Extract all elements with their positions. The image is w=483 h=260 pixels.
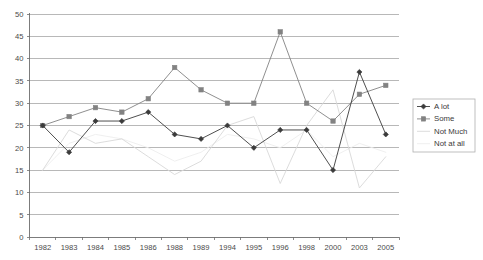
- data-point-marker: [252, 101, 256, 105]
- data-point-marker: [357, 69, 362, 74]
- x-axis-tick-label: 1995: [245, 243, 262, 252]
- x-axis-tick-label: 2000: [325, 243, 342, 252]
- y-axis-tick-label: 10: [15, 188, 23, 197]
- y-axis-tick-label: 20: [15, 144, 23, 153]
- x-axis-tick-label: 1989: [193, 243, 210, 252]
- data-point-marker: [93, 105, 97, 109]
- line-chart: 05101520253035404550 1982198319841985198…: [0, 0, 483, 260]
- y-axis-tick-label: 5: [19, 211, 23, 220]
- legend-item-label: Not Much: [434, 127, 467, 136]
- data-point-marker: [384, 83, 388, 87]
- x-axis-tick-label: 1985: [113, 243, 130, 252]
- y-axis-tick-label: 0: [19, 233, 23, 242]
- data-point-marker: [199, 88, 203, 92]
- x-axis-tick-label: 1982: [34, 243, 51, 252]
- data-point-marker: [383, 132, 388, 137]
- series-line: [43, 32, 386, 126]
- x-axis-tick-label: 1983: [61, 243, 78, 252]
- legend-item-label: Some: [434, 114, 454, 123]
- y-axis-tick-label: 40: [15, 54, 23, 63]
- data-point-marker: [172, 65, 176, 69]
- data-series-group: [40, 30, 388, 188]
- gridlines-group: [30, 14, 400, 215]
- data-point-marker: [330, 168, 335, 173]
- legend-item-label: A lot: [434, 102, 450, 111]
- data-point-marker: [278, 30, 282, 34]
- x-axis-tick-label: 1984: [87, 243, 104, 252]
- chart-canvas: 05101520253035404550 1982198319841985198…: [0, 0, 483, 260]
- data-point-marker: [146, 97, 150, 101]
- data-point-marker: [198, 136, 203, 141]
- y-axis-tick-label: 50: [15, 10, 23, 19]
- data-point-marker: [120, 110, 124, 114]
- x-axis-tick-label: 2003: [351, 243, 368, 252]
- legend-item-label: Not at all: [434, 139, 465, 148]
- series-not-much: [43, 90, 386, 188]
- x-axis-tick-label: 1994: [219, 243, 236, 252]
- x-axis-tick-label: 2005: [377, 243, 394, 252]
- data-point-marker: [67, 114, 71, 118]
- data-point-marker: [304, 101, 308, 105]
- y-axis-tick-label: 25: [15, 121, 23, 130]
- data-point-marker: [225, 101, 229, 105]
- data-point-marker: [278, 127, 283, 132]
- x-axis-tick-label: 1996: [272, 243, 289, 252]
- series-some: [40, 30, 388, 128]
- y-axis-tick-label: 30: [15, 99, 23, 108]
- y-axis-tick-label: 15: [15, 166, 23, 175]
- legend-sample-marker: [421, 117, 425, 121]
- y-axis-tick-labels: 05101520253035404550: [15, 10, 23, 242]
- x-axis-tick-labels: 1982198319841985198619881989199419951996…: [34, 243, 394, 252]
- y-axis-tick-label: 35: [15, 77, 23, 86]
- x-axis-tick-label: 1986: [140, 243, 157, 252]
- data-point-marker: [119, 118, 124, 123]
- data-point-marker: [331, 119, 335, 123]
- series-a-lot: [40, 69, 388, 172]
- chart-legend: A lotSomeNot MuchNot at all: [413, 99, 475, 152]
- series-line: [43, 90, 386, 188]
- y-axis-tick-label: 45: [15, 32, 23, 41]
- x-axis-tick-label: 1998: [298, 243, 315, 252]
- data-point-marker: [357, 92, 361, 96]
- x-axis-tick-label: 1988: [166, 243, 183, 252]
